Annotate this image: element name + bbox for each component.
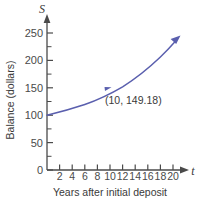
x-axis-tick-labels: 2 4 6 8 10 12 14 16 18 20: [57, 170, 179, 182]
data-point-label: (10, 149.18): [105, 94, 162, 106]
curve-arrowhead: [171, 36, 181, 45]
chart-container: 0 50 100 150 200 250 2 4 6 8 10: [0, 0, 203, 203]
x-axis-title: Years after initial deposit: [53, 186, 167, 198]
balance-growth-chart: 0 50 100 150 200 250 2 4 6 8 10: [0, 0, 203, 203]
y-axis-title: Balance (dollars): [4, 61, 16, 140]
y-tick-label: 100: [25, 109, 43, 121]
x-tick-label: 6: [82, 170, 88, 182]
x-tick-label: 16: [142, 170, 154, 182]
y-axis-ticks: [47, 33, 53, 170]
x-tick-label: 14: [129, 170, 141, 182]
x-tick-label: 8: [94, 170, 100, 182]
y-tick-label: 200: [25, 54, 43, 66]
x-tick-label: 2: [57, 170, 63, 182]
y-tick-label: 50: [31, 137, 43, 149]
annotated-point-group: (10, 149.18): [105, 87, 162, 106]
y-tick-label: 150: [25, 82, 43, 94]
x-tick-label: 12: [117, 170, 129, 182]
y-axis-variable-label: S: [39, 2, 45, 16]
x-tick-label: 4: [69, 170, 75, 182]
y-tick-label: 0: [37, 164, 43, 176]
x-tick-label: 18: [155, 170, 167, 182]
x-tick-label: 10: [104, 170, 116, 182]
y-axis-tick-labels: 0 50 100 150 200 250: [25, 27, 43, 176]
x-axis-arrowhead: [180, 167, 189, 174]
data-point-marker: [105, 87, 112, 91]
x-axis-variable-label: t: [191, 164, 195, 178]
x-tick-label: 20: [167, 170, 179, 182]
y-tick-label: 250: [25, 27, 43, 39]
